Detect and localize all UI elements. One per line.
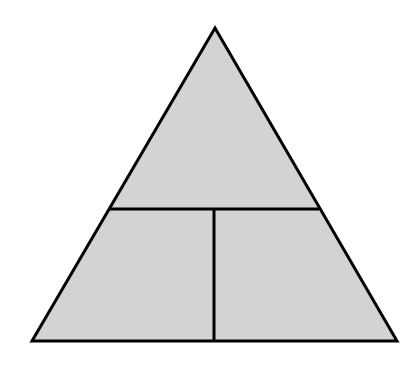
triangle-diagram [0,0,419,380]
